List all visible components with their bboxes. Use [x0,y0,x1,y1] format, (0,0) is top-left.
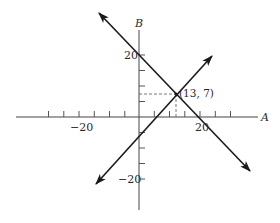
tick-label-h-neg20: −20 [70,121,93,134]
tick-label-v-20: 20 [124,49,138,62]
intersection-label: (13, 7) [179,87,214,99]
axis-label-b: B [134,17,143,30]
horizontal-axis [16,111,258,117]
falling-line [99,13,250,171]
tick-label-h-20: 20 [195,121,209,134]
tick-label-v-neg20: −20 [118,173,141,186]
graph-canvas: B A −20 20 20 −20 (13, 7) [0,0,280,223]
axis-label-a: A [260,111,269,124]
rising-line [96,56,212,184]
intersection-guides [139,94,176,117]
intersection-point [174,92,177,95]
coordinate-diagram: B A −20 20 20 −20 (13, 7) [0,0,280,223]
